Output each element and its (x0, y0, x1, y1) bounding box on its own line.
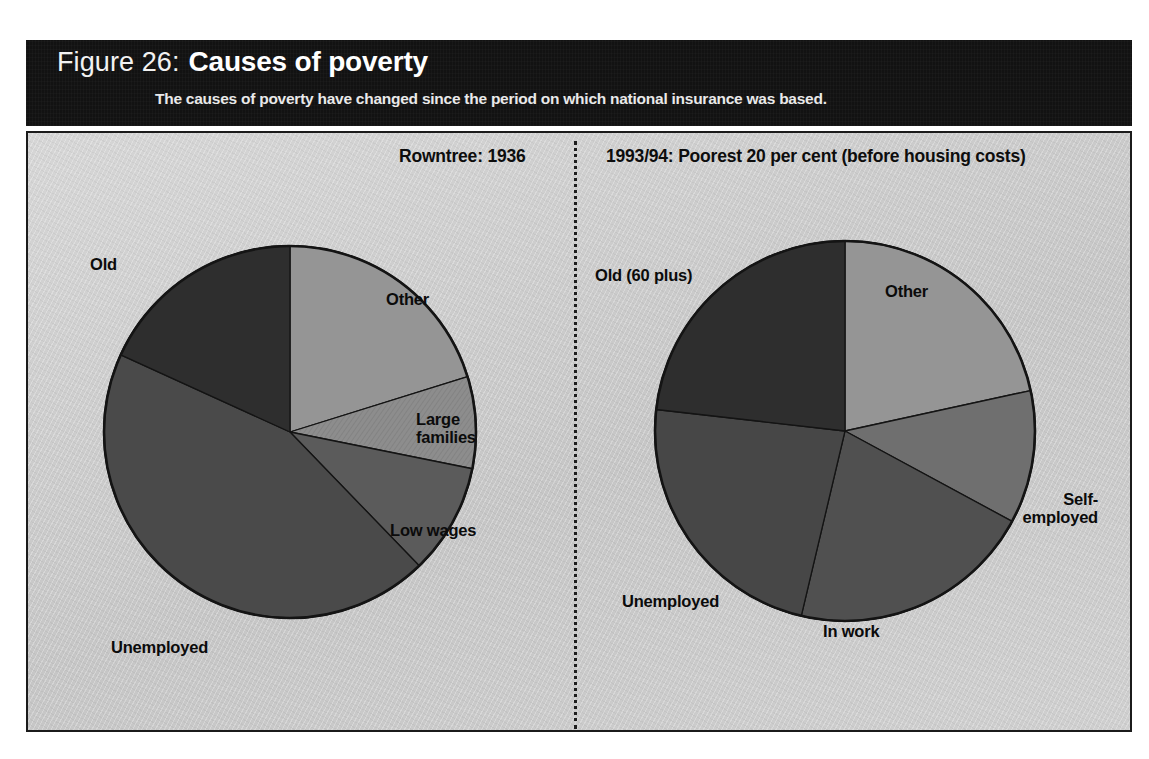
figure-header-band: Figure 26:Causes of poverty The causes o… (26, 40, 1132, 126)
right-label-in-work: In work (823, 622, 963, 640)
right-label-self-employed: Self- employed (958, 490, 1098, 527)
left-label-old: Old (90, 255, 210, 273)
left-label-unemployed: Unemployed (111, 638, 291, 656)
left-label-low-wages: Low wages (390, 521, 540, 539)
left-panel-title: Rowntree: 1936 (399, 146, 526, 167)
figure-container: Figure 26:Causes of poverty The causes o… (0, 0, 1149, 759)
figure-subtitle: The causes of poverty have changed since… (155, 90, 827, 108)
figure-number: Figure 26: (57, 47, 180, 77)
right-label-old: Old (60 plus) (595, 266, 770, 284)
left-label-other: Other (386, 290, 506, 308)
left-label-large-families: Large families (416, 410, 546, 447)
panel-divider (574, 141, 577, 729)
right-panel-title: 1993/94: Poorest 20 per cent (before hou… (606, 146, 1026, 167)
page-title: Causes of poverty (189, 46, 428, 77)
figure-heading-line: Figure 26:Causes of poverty (57, 48, 428, 76)
right-label-unemployed: Unemployed (622, 592, 797, 610)
chart-panel: Rowntree: 1936 1993/94: Poorest 20 per c… (26, 131, 1132, 732)
right-label-other: Other (885, 282, 1005, 300)
